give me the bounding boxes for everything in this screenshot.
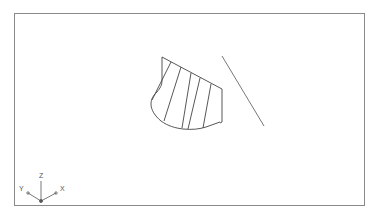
ruled-surface [151, 57, 222, 129]
x-axis-label: X [60, 185, 65, 192]
z-axis-label: Z [39, 172, 44, 179]
ucs-icon [27, 181, 57, 203]
drawing-canvas: Z Y X [0, 0, 373, 217]
y-axis-label: Y [19, 185, 24, 192]
line-segment [222, 56, 264, 126]
